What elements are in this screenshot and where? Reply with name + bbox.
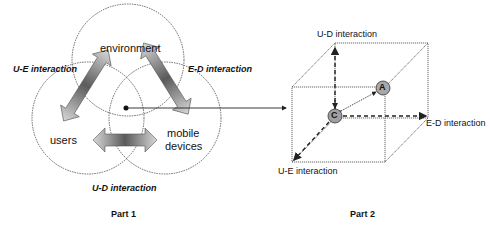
mobile-label-line1: mobile — [167, 127, 199, 139]
ud-interaction-label: U-D interaction — [92, 183, 157, 193]
ue-block-arrow — [54, 44, 117, 127]
ue-interaction-label: U-E interaction — [13, 64, 77, 74]
ue-axis — [294, 122, 329, 160]
environment-circle — [72, 4, 184, 116]
mobile-label-line2: devices — [165, 140, 202, 152]
users-label: users — [50, 134, 77, 146]
ed-interaction-label: E-D interaction — [188, 64, 252, 74]
point-c-label: C — [331, 110, 338, 120]
ud-axis-label: U-D interaction — [317, 29, 377, 39]
part1-caption: Part 1 — [111, 209, 136, 219]
ud-block-arrow — [93, 128, 157, 152]
a-c-link — [341, 92, 376, 111]
ue-axis-label: U-E interaction — [278, 166, 338, 176]
diagram-canvas — [0, 0, 490, 229]
ed-axis-label: E-D interaction — [426, 118, 486, 128]
point-a-label: A — [379, 82, 386, 92]
part2-caption: Part 2 — [350, 209, 375, 219]
environment-label: environment — [100, 42, 161, 54]
cube — [292, 43, 428, 162]
